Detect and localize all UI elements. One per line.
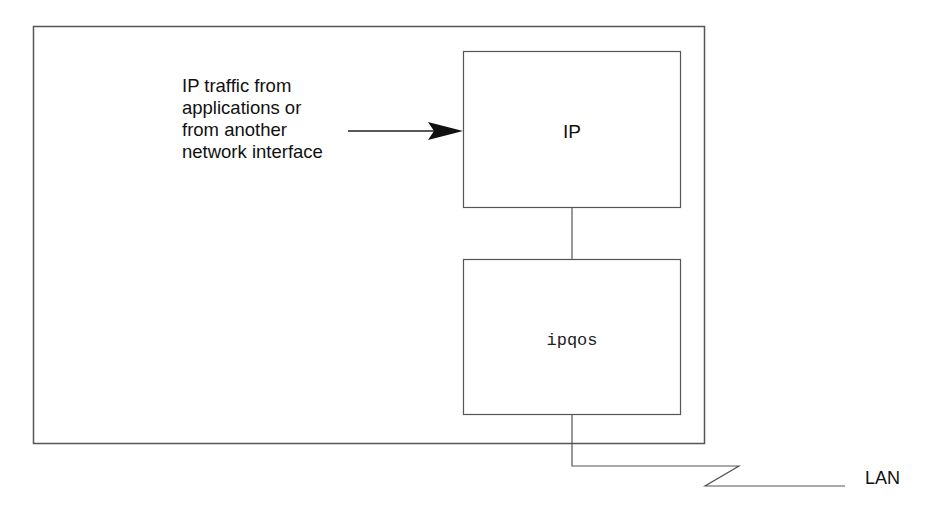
- lan-label: LAN: [865, 468, 900, 488]
- input-traffic-label: IP traffic from applications or from ano…: [182, 75, 323, 162]
- lan-link: [572, 414, 845, 486]
- ip-box-label: IP: [563, 121, 581, 142]
- ipqos-diagram: IP ipqos IP traffic from applications or…: [0, 0, 940, 512]
- ipqos-box-label: ipqos: [546, 331, 597, 350]
